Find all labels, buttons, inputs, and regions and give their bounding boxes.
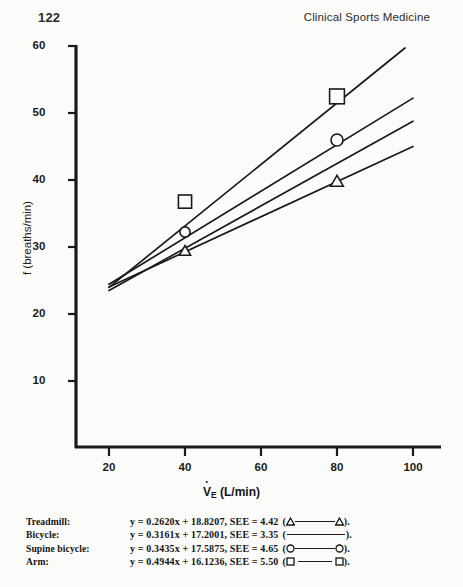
legend-row-arm: Arm: y = 0.4944x + 16.1236, SEE = 5.50 (… <box>26 556 463 569</box>
legend-paren-close: ). <box>344 556 350 567</box>
legend-key-arm: ( ). <box>282 556 349 567</box>
x-tick-100: 100 <box>393 461 433 473</box>
triangle-icon <box>335 517 344 526</box>
legend-row-bicycle: Bicycle: y = 0.3161x + 17.2001, SEE = 3.… <box>26 529 463 542</box>
y-tick-10: 10 <box>22 374 56 386</box>
figure-legend: Treadmill: y = 0.2620x + 18.8207, SEE = … <box>26 516 463 570</box>
legend-label-arm: Arm: <box>26 556 130 567</box>
marker-supine-80 <box>331 134 343 146</box>
axis-frame <box>75 45 441 448</box>
square-icon <box>335 557 344 566</box>
legend-paren-close: ). <box>346 529 352 540</box>
v-dot-glyph: V <box>203 485 211 499</box>
legend-equation-bicycle: y = 0.3161x + 17.2001, SEE = 3.35 <box>130 529 278 540</box>
line-supine-bicycle <box>109 98 413 284</box>
triangle-icon <box>286 517 295 526</box>
legend-connector-line <box>298 561 332 562</box>
line-arm <box>109 48 405 287</box>
marker-treadmill-80 <box>331 175 344 186</box>
legend-connector-line <box>295 548 335 549</box>
y-tick-20: 20 <box>22 307 56 319</box>
x-tick-60: 60 <box>241 461 281 473</box>
x-tick-20: 20 <box>89 461 129 473</box>
legend-key-treadmill: ( ). <box>282 516 349 527</box>
regression-figure: 60 50 40 30 20 10 20 40 60 80 100 f (bre… <box>0 0 463 587</box>
x-axis-label-units: (L/min) <box>220 485 260 499</box>
legend-label-bicycle: Bicycle: <box>26 529 130 540</box>
legend-equation-supine-bicycle: y = 0.3435x + 17.5875, SEE = 4.65 <box>130 543 278 554</box>
legend-connector-line <box>287 534 345 535</box>
legend-label-supine-bicycle: Supine bicycle: <box>26 543 130 554</box>
legend-equation-arm: y = 0.4944x + 16.1236, SEE = 5.50 <box>130 556 278 567</box>
legend-label-treadmill: Treadmill: <box>26 516 130 527</box>
x-axis-label: VE (L/min) <box>0 485 463 499</box>
legend-connector-line <box>295 521 335 522</box>
line-bicycle <box>109 121 413 290</box>
square-icon <box>286 557 295 566</box>
legend-paren-close: ). <box>344 543 350 554</box>
y-tick-60: 60 <box>22 39 56 51</box>
circle-icon <box>286 544 295 553</box>
y-axis-label: f (breaths/min) <box>21 173 33 303</box>
legend-row-supine-bicycle: Supine bicycle: y = 0.3435x + 17.5875, S… <box>26 543 463 556</box>
marker-arm-80 <box>330 89 345 104</box>
legend-row-treadmill: Treadmill: y = 0.2620x + 18.8207, SEE = … <box>26 516 463 529</box>
legend-paren-close: ). <box>344 516 350 527</box>
marker-arm-40 <box>178 195 191 208</box>
marker-supine-40 <box>180 227 190 237</box>
x-axis-label-subscript: E <box>211 490 217 500</box>
x-tick-80: 80 <box>317 461 357 473</box>
regression-lines <box>109 48 413 291</box>
data-markers <box>178 89 344 255</box>
y-tick-50: 50 <box>22 106 56 118</box>
legend-paren-open: ( <box>282 529 285 540</box>
legend-key-bicycle: ( ). <box>282 529 351 540</box>
textbook-page: 122 Clinical Sports Medicine <box>0 0 463 587</box>
legend-key-supine-bicycle: ( ). <box>282 543 349 554</box>
x-tick-40: 40 <box>165 461 205 473</box>
legend-equation-treadmill: y = 0.2620x + 18.8207, SEE = 4.42 <box>130 516 278 527</box>
circle-icon <box>335 544 344 553</box>
